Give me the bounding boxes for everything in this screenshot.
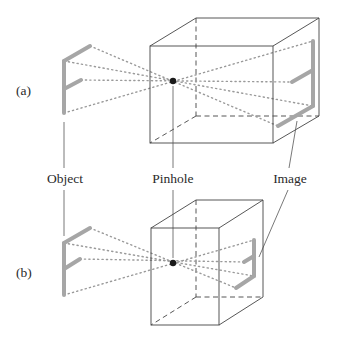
pinhole-label: Pinhole (152, 171, 193, 186)
inverted-image-a (278, 41, 313, 126)
panel-a-label: (a) (16, 83, 31, 98)
image-leader-a (289, 121, 297, 168)
image-label: Image (273, 171, 307, 186)
pinhole-camera-diagram: (a) (0, 0, 337, 340)
object-letter-f-b (64, 228, 90, 295)
panel-b: (b) (16, 190, 288, 325)
panel-a: (a) (16, 18, 319, 168)
light-rays-b (64, 228, 254, 295)
light-rays-a (64, 41, 313, 126)
callout-labels: Object Pinhole Image (47, 171, 307, 186)
pinhole-b (170, 260, 176, 266)
object-label: Object (47, 171, 83, 186)
panel-b-label: (b) (16, 265, 32, 280)
inverted-image-b (236, 240, 254, 288)
pinhole-a (170, 78, 176, 84)
